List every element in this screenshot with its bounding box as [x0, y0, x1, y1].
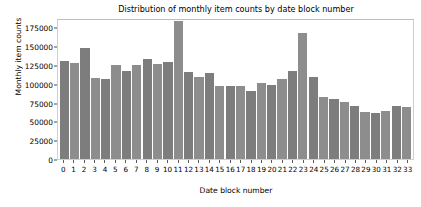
x-tick-label: 6 [121, 161, 131, 177]
bar [236, 86, 245, 159]
bar [392, 106, 401, 159]
x-tick-label: 21 [277, 161, 287, 177]
x-tick-label: 23 [298, 161, 308, 177]
x-tick-label: 20 [267, 161, 277, 177]
bar [329, 99, 338, 159]
y-tick-mark [54, 28, 57, 29]
x-tick-label: 28 [350, 161, 360, 177]
bar [143, 59, 152, 159]
y-tick-mark [54, 122, 57, 123]
x-tick-label: 3 [89, 161, 99, 177]
bar [101, 79, 110, 159]
x-tick-label: 15 [215, 161, 225, 177]
bar [340, 102, 349, 159]
bar-series [58, 20, 413, 159]
y-tick-mark [54, 141, 57, 142]
x-tick-label: 25 [319, 161, 329, 177]
x-tick-label: 27 [340, 161, 350, 177]
x-tick-label: 33 [402, 161, 412, 177]
x-tick-label: 18 [246, 161, 256, 177]
bar [319, 97, 328, 159]
x-tick-label: 17 [235, 161, 245, 177]
y-tick-label: 25000 [7, 137, 53, 146]
x-tick-label: 31 [382, 161, 392, 177]
y-tick-label: 75000 [7, 99, 53, 108]
bar [360, 112, 369, 159]
bar [371, 113, 380, 159]
bar [402, 107, 411, 159]
x-tick-label: 30 [371, 161, 381, 177]
y-tick-mark [54, 103, 57, 104]
bar [132, 65, 141, 159]
bar [277, 79, 286, 159]
y-tick-label: 0 [7, 156, 53, 165]
y-tick-label: 100000 [7, 80, 53, 89]
y-tick-label: 150000 [7, 43, 53, 52]
x-tick-label: 8 [142, 161, 152, 177]
bar [288, 71, 297, 159]
bar [111, 65, 120, 159]
x-tick-label: 29 [361, 161, 371, 177]
bar [215, 86, 224, 159]
bar [267, 85, 276, 159]
bar [298, 33, 307, 159]
x-tick-label: 1 [68, 161, 78, 177]
bar [91, 78, 100, 159]
bar [174, 21, 183, 159]
bar [70, 63, 79, 159]
x-tick-label: 9 [152, 161, 162, 177]
bar [122, 71, 131, 159]
bar [205, 73, 214, 159]
x-tick-label: 12 [183, 161, 193, 177]
x-tick-label: 7 [131, 161, 141, 177]
bar [257, 83, 266, 159]
y-tick-label: 125000 [7, 62, 53, 71]
x-tick-label: 19 [256, 161, 266, 177]
chart-figure: Distribution of monthly item counts by d… [0, 0, 421, 207]
y-tick-label: 175000 [7, 24, 53, 33]
bar [163, 62, 172, 159]
x-tick-label: 0 [58, 161, 68, 177]
x-tick-label: 24 [309, 161, 319, 177]
bar [153, 64, 162, 160]
bar [309, 77, 318, 159]
x-axis-label: Date block number [57, 186, 415, 195]
bar [80, 48, 89, 159]
x-tick-label: 2 [79, 161, 89, 177]
bar [381, 111, 390, 159]
chart-title: Distribution of monthly item counts by d… [57, 4, 415, 14]
y-tick-label: 50000 [7, 118, 53, 127]
y-tick-mark [54, 47, 57, 48]
x-tick-label: 26 [329, 161, 339, 177]
bar [246, 91, 255, 159]
y-tick-mark [54, 84, 57, 85]
x-tick-label: 10 [162, 161, 172, 177]
plot-area [57, 19, 414, 160]
x-tick-label: 14 [204, 161, 214, 177]
x-tick-label: 11 [173, 161, 183, 177]
bar [194, 77, 203, 159]
bar [350, 106, 359, 159]
bar [226, 86, 235, 159]
x-tick-label: 13 [194, 161, 204, 177]
y-tick-mark [54, 66, 57, 67]
x-tick-label: 16 [225, 161, 235, 177]
x-tick-label: 32 [392, 161, 402, 177]
x-tick-label: 5 [110, 161, 120, 177]
bar [60, 61, 69, 160]
x-axis-ticks: 0123456789101112131415161718192021222324… [57, 161, 414, 177]
x-tick-label: 22 [288, 161, 298, 177]
bar [184, 72, 193, 159]
x-tick-label: 4 [100, 161, 110, 177]
